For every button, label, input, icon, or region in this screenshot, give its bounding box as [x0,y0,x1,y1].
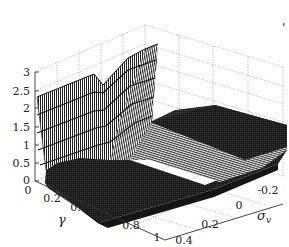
svg-text:0.6: 0.6 [96,210,114,223]
svg-text:-0.2: -0.2 [257,184,278,197]
svg-text:1: 1 [23,139,30,152]
svg-text:3: 3 [23,66,30,79]
svg-text:0.4: 0.4 [175,234,193,247]
gamma-axis-label: γ [58,212,66,227]
svg-text:1: 1 [154,231,161,244]
surface-plot: 3 2.5 2 1.5 1 0.5 0 0 0.2 0.4 0.6 0.8 1 … [0,0,289,247]
svg-text:2: 2 [23,102,30,115]
svg-text:0.2: 0.2 [43,192,61,205]
sigma-axis-label: σv [257,208,271,225]
svg-text:0: 0 [236,199,243,212]
corner-mark [283,23,285,26]
z-tick-labels: 3 2.5 2 1.5 1 0.5 0 [13,66,31,187]
svg-text:2.5: 2.5 [13,85,31,98]
svg-text:0.4: 0.4 [70,201,88,214]
svg-text:1.5: 1.5 [13,121,31,134]
svg-text:0: 0 [25,184,32,197]
svg-text:0.5: 0.5 [13,157,31,170]
plot-canvas: 3 2.5 2 1.5 1 0.5 0 0 0.2 0.4 0.6 0.8 1 … [0,0,289,247]
svg-text:0.8: 0.8 [122,219,140,232]
svg-text:0.2: 0.2 [201,218,219,231]
